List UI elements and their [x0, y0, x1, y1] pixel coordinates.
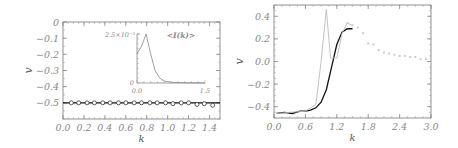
x-tick-label: 1.4 [202, 122, 217, 133]
diamond-marker [101, 101, 105, 105]
chart-figure: 0.00.20.40.60.81.01.21.40−0.1−0.2−0.3−0.… [0, 0, 458, 148]
dotted-marker [372, 44, 374, 46]
dotted-marker [346, 22, 348, 24]
x-tick-label: 1.8 [361, 121, 376, 132]
diamond-marker [187, 101, 191, 105]
dotted-marker [388, 53, 390, 55]
y-tick-label: −0.3 [36, 65, 59, 76]
diamond-marker [179, 101, 183, 105]
diamond-marker [140, 101, 144, 105]
diamond-marker [211, 103, 215, 107]
x-tick-label: 1.2 [181, 122, 196, 133]
diamond-marker [164, 101, 168, 105]
inset-y-tick-top: 2.5×10⁻⁵ [104, 31, 135, 39]
diamond-marker [85, 101, 89, 105]
diamond-marker [124, 101, 128, 105]
y-tick-label: 0.2 [255, 33, 270, 44]
x-tick-label: 0.6 [118, 122, 133, 133]
dotted-marker [414, 56, 416, 58]
dotted-marker [362, 32, 364, 34]
x-tick-label: 0.8 [139, 122, 154, 133]
y-axis-label: v [233, 58, 246, 65]
x-tick-label: 1.0 [160, 122, 175, 133]
dotted-marker [399, 55, 401, 57]
inset-x-tick: 0.0 [132, 87, 142, 95]
inset-x-tick: 1.5 [200, 87, 210, 95]
inset-title: <I(k)> [167, 31, 195, 40]
x-tick-label: 0.2 [76, 122, 91, 133]
inset-curve [137, 34, 205, 83]
x-tick-label: 3.0 [423, 121, 438, 132]
x-tick-label: 0.0 [266, 121, 281, 132]
diamond-marker [155, 101, 159, 105]
diamond-marker [132, 101, 136, 105]
diamond-marker [92, 101, 96, 105]
dotted-marker [367, 42, 369, 44]
y-tick-label: −0.4 [247, 101, 270, 112]
dotted-marker [378, 49, 380, 51]
x-tick-label: 2.4 [391, 121, 407, 132]
diamond-marker [77, 101, 81, 105]
inset-plot: 2.5×10⁻⁵00.01.5<I(k)> [104, 31, 210, 95]
black-curve [277, 29, 353, 114]
dotted-marker [425, 58, 427, 60]
left-plot: 0.00.20.40.60.81.01.21.40−0.1−0.2−0.3−0.… [22, 17, 220, 145]
diamond-marker [195, 102, 199, 106]
right-plot: 0.00.61.21.82.43.00.40.20.0−0.2−0.4kv [233, 5, 439, 143]
diamond-marker [116, 101, 120, 105]
diamond-marker [69, 101, 73, 105]
diamond-marker [148, 101, 152, 105]
x-tick-label: 1.2 [329, 121, 344, 132]
y-tick-label: −0.2 [247, 79, 270, 90]
y-tick-label: 0.0 [255, 56, 270, 67]
dotted-marker [383, 51, 385, 53]
dotted-marker [420, 58, 422, 60]
dotted-marker [393, 54, 395, 56]
inset-y-tick-bottom: 0 [130, 79, 134, 87]
x-tick-label: 0.0 [55, 122, 70, 133]
y-tick-label: −0.1 [36, 33, 59, 44]
dotted-marker [404, 55, 406, 57]
diamond-marker [202, 102, 206, 106]
y-tick-label: −0.2 [36, 49, 59, 60]
y-tick-label: 0 [53, 17, 59, 28]
diamond-marker [108, 101, 112, 105]
dotted-marker [409, 56, 411, 58]
gray-curve [277, 10, 353, 114]
y-axis-label: v [22, 67, 35, 74]
x-tick-label: 0.4 [97, 122, 112, 133]
x-tick-label: 0.6 [298, 121, 313, 132]
y-tick-label: 0.4 [255, 11, 270, 22]
dotted-marker [357, 27, 359, 29]
dotted-marker [430, 58, 432, 60]
x-axis-label: k [138, 133, 144, 144]
dotted-marker [352, 24, 354, 26]
y-tick-label: −0.5 [36, 97, 59, 108]
diamond-marker [171, 102, 175, 106]
y-tick-label: −0.4 [36, 81, 59, 92]
x-axis-label: k [349, 132, 355, 143]
